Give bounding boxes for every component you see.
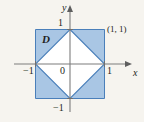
corner-point-label: (1, 1)	[107, 25, 127, 34]
x-tick-label-one: 1	[107, 66, 112, 76]
y-axis-arrow-icon	[67, 5, 73, 12]
y-tick-label-negative-one: −1	[53, 103, 64, 113]
x-axis-arrow-icon	[125, 61, 132, 67]
origin-label: 0	[60, 66, 65, 76]
y-tick-label-one: 1	[58, 18, 63, 28]
x-axis-label: x	[133, 68, 137, 78]
math-figure: y x 1 −1 1 −1 0 D (1, 1)	[0, 0, 144, 122]
x-tick-label-negative-one: −1	[23, 66, 34, 76]
coordinate-plot	[0, 0, 144, 122]
y-axis-label: y	[62, 3, 66, 13]
region-label-d: D	[42, 34, 50, 45]
